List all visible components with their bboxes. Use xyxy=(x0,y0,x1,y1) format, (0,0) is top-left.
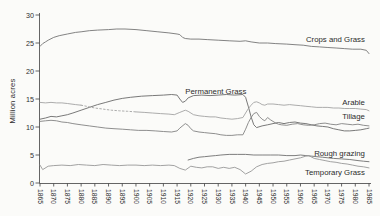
x-tick-label: 1885 xyxy=(91,189,98,204)
x-tick-label: 1865 xyxy=(37,189,44,204)
x-tick-label: 1975 xyxy=(338,189,345,204)
x-tick-label: 1935 xyxy=(229,189,236,204)
x-tick-label: 1955 xyxy=(283,189,290,204)
x-tick-label: 1905 xyxy=(146,189,153,204)
series-label-temporary-grass: Temporary Grass xyxy=(305,168,365,177)
x-tick-label: 1930 xyxy=(215,189,222,204)
y-tick-label: 0 xyxy=(30,179,34,188)
x-tick-label: 1920 xyxy=(187,189,194,204)
series-label-crops-and-grass: Crops and Grass xyxy=(306,35,365,44)
x-tick-label: 1960 xyxy=(297,189,304,204)
series-line-arable xyxy=(40,102,81,105)
y-tick-label: 15 xyxy=(26,95,34,104)
x-tick-label: 1985 xyxy=(366,189,373,204)
y-tick-label: 10 xyxy=(26,123,34,132)
x-tick-label: 1970 xyxy=(324,189,331,204)
y-tick-label: 20 xyxy=(26,67,34,76)
x-tick-label: 1900 xyxy=(133,189,140,204)
figure: Million acres 05101520253018651870187518… xyxy=(0,0,380,216)
x-tick-label: 1980 xyxy=(352,189,359,204)
x-tick-label: 1925 xyxy=(201,189,208,204)
y-tick-label: 30 xyxy=(26,11,34,20)
series-line-arable xyxy=(136,102,369,119)
x-tick-label: 1945 xyxy=(256,189,263,204)
series-line-arable xyxy=(81,105,136,112)
x-tick-label: 1965 xyxy=(311,189,318,204)
series-label-tillage: Tillage xyxy=(342,112,365,121)
x-tick-label: 1915 xyxy=(174,189,181,204)
series-label-arable: Arable xyxy=(342,98,365,107)
x-tick-label: 1950 xyxy=(270,189,277,204)
x-tick-label: 1890 xyxy=(105,189,112,204)
y-axis-title: Million acres xyxy=(8,79,17,124)
series-label-rough-grazing: Rough grazing xyxy=(314,149,365,158)
y-tick-label: 5 xyxy=(30,151,34,160)
y-tick-label: 25 xyxy=(26,39,34,48)
x-tick-label: 1895 xyxy=(119,189,126,204)
land-use-chart: Million acres 05101520253018651870187518… xyxy=(0,0,380,216)
x-tick-label: 1875 xyxy=(64,189,71,204)
x-tick-label: 1880 xyxy=(78,189,85,204)
x-tick-label: 1870 xyxy=(50,189,57,204)
series-label-permanent-grass: Permanent Grass xyxy=(185,87,246,96)
series-line-tillage xyxy=(40,112,369,135)
x-tick-label: 1910 xyxy=(160,189,167,204)
x-tick-label: 1940 xyxy=(242,189,249,204)
series-line-permanent-grass xyxy=(40,95,369,131)
